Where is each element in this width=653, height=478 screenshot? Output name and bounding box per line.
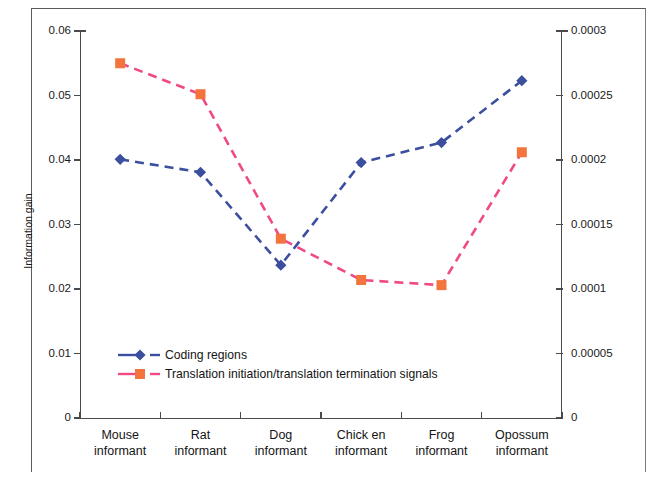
x-axis-tick [160, 412, 161, 419]
x-axis-tick [320, 412, 321, 419]
y-axis-right-tick-label: 0.00005 [571, 348, 613, 360]
y-axis-left-tick [74, 224, 81, 225]
legend-label: Coding regions [165, 348, 247, 362]
y-axis-right-tick-label: 0.0001 [571, 283, 606, 295]
y-axis-left-tick-label: 0.02 [49, 283, 71, 295]
x-axis-tick [481, 412, 482, 419]
y-axis-title: Information gain [22, 176, 34, 286]
legend-diamond-marker-icon [118, 348, 162, 362]
data-point-square [276, 234, 286, 244]
series-coding-regions [115, 75, 528, 271]
data-point-diamond [516, 75, 527, 86]
legend-square-marker-icon [118, 367, 162, 381]
data-point-diamond [436, 137, 447, 148]
y-axis-left-tick-label: 0.05 [49, 90, 71, 102]
chart-legend: Coding regionsTranslation initiation/tra… [118, 345, 438, 383]
series-line [120, 81, 522, 265]
y-axis-right-tick [556, 353, 563, 354]
x-axis-tick [561, 412, 562, 419]
legend-item: Translation initiation/translation termi… [118, 364, 438, 383]
legend-label: Translation initiation/translation termi… [165, 367, 438, 381]
series-plot [0, 0, 653, 478]
y-axis-right-tick [556, 95, 563, 96]
y-axis-left-tick-label: 0.03 [49, 219, 71, 231]
y-axis-right-tick-label: 0.00025 [571, 90, 613, 102]
data-point-diamond [115, 154, 126, 165]
y-axis-right-tick [556, 224, 563, 225]
data-point-square [196, 89, 206, 99]
y-axis-left-tick [74, 159, 81, 160]
y-axis-right-tick-label: 0 [571, 412, 577, 424]
x-axis-tick [240, 412, 241, 419]
data-point-diamond [356, 157, 367, 168]
y-axis-right-tick [556, 159, 563, 160]
x-axis-tick [401, 412, 402, 419]
y-axis-right-tick [556, 288, 563, 289]
y-axis-left-tick [74, 30, 86, 31]
y-axis-left-tick [74, 95, 81, 96]
y-axis-right-tick-label: 0.00015 [571, 219, 613, 231]
y-axis-right-tick [556, 30, 568, 31]
data-point-square [115, 58, 125, 68]
y-axis-left-tick-label: 0.06 [49, 25, 71, 37]
x-axis-tick [79, 412, 80, 419]
data-point-square [356, 275, 366, 285]
y-axis-left-tick-label: 0 [65, 412, 71, 424]
data-point-square [437, 280, 447, 290]
x-axis-category-label: Opossuminformant [467, 428, 577, 459]
data-point-diamond [275, 260, 286, 271]
information-gain-chart: Information gain 00.010.020.030.040.050.… [0, 0, 653, 478]
y-axis-left-tick [74, 288, 81, 289]
series-line [120, 63, 522, 285]
y-axis-left-tick-label: 0.01 [49, 348, 71, 360]
legend-item: Coding regions [118, 345, 438, 364]
y-axis-left-tick [74, 353, 81, 354]
series-translation-signals [115, 58, 527, 290]
data-point-square [517, 147, 527, 157]
y-axis-right-tick-label: 0.0003 [571, 25, 606, 37]
y-axis-left-tick-label: 0.04 [49, 154, 71, 166]
y-axis-right-tick-label: 0.0002 [571, 154, 606, 166]
data-point-diamond [195, 167, 206, 178]
